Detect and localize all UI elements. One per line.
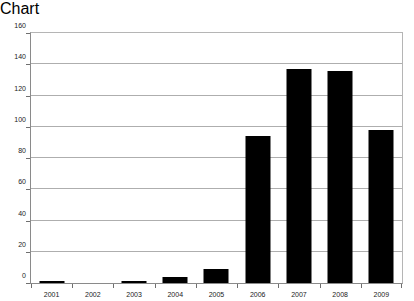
y-axis-tick-label: 160 bbox=[2, 22, 26, 30]
x-axis-labels: 200120022003200420052006200720082009 bbox=[31, 290, 402, 301]
x-axis-tick-label: 2007 bbox=[278, 290, 319, 299]
y-axis-tick-marks bbox=[0, 32, 30, 284]
x-axis-tick-mark bbox=[237, 284, 238, 288]
x-axis-tick-label: 2008 bbox=[320, 290, 361, 299]
x-axis-tick-mark bbox=[31, 284, 32, 288]
bar-slot bbox=[320, 33, 361, 283]
bar-slot bbox=[196, 33, 237, 283]
bar-chart: 020406080100120140160 200120022003200420… bbox=[0, 18, 414, 301]
bar[interactable] bbox=[204, 269, 229, 283]
bar-slot bbox=[278, 33, 319, 283]
bar-slot bbox=[155, 33, 196, 283]
x-axis-tick-label: 2005 bbox=[196, 290, 237, 299]
bar[interactable] bbox=[245, 136, 270, 283]
bar[interactable] bbox=[369, 130, 394, 283]
x-axis-tick-mark bbox=[72, 284, 73, 288]
x-axis-tick-label: 2003 bbox=[113, 290, 154, 299]
x-axis-tick-marks bbox=[31, 284, 402, 289]
x-axis-tick-mark bbox=[361, 284, 362, 288]
x-axis-tick-label: 2001 bbox=[31, 290, 72, 299]
x-axis-tick-label: 2002 bbox=[72, 290, 113, 299]
x-axis-tick-mark bbox=[155, 284, 156, 288]
bar-slot bbox=[113, 33, 154, 283]
x-axis-tick-mark bbox=[320, 284, 321, 288]
bar-slot bbox=[237, 33, 278, 283]
bar[interactable] bbox=[328, 71, 353, 284]
bar[interactable] bbox=[39, 281, 64, 283]
x-axis-tick-label: 2009 bbox=[361, 290, 402, 299]
bars-layer bbox=[31, 33, 402, 283]
bar-slot bbox=[72, 33, 113, 283]
x-axis-tick-label: 2006 bbox=[237, 290, 278, 299]
x-axis-tick-mark bbox=[278, 284, 279, 288]
bar-slot bbox=[361, 33, 402, 283]
x-axis-tick-mark bbox=[113, 284, 114, 288]
bar[interactable] bbox=[286, 69, 311, 283]
bar-slot bbox=[31, 33, 72, 283]
bar[interactable] bbox=[122, 281, 147, 283]
x-axis-tick-label: 2004 bbox=[155, 290, 196, 299]
bar[interactable] bbox=[163, 277, 188, 283]
x-axis-tick-mark bbox=[196, 284, 197, 288]
x-axis-tick-mark bbox=[401, 284, 402, 288]
